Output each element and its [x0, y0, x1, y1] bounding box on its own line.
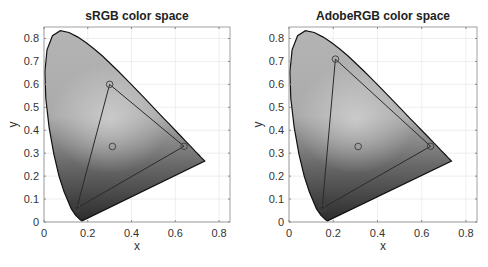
y-tick-label: 0 — [278, 216, 284, 228]
y-tick-label: 0.5 — [24, 101, 39, 113]
srgb-chart: 00.20.40.60.800.10.20.30.40.50.60.70.8sR… — [0, 0, 244, 267]
x-axis-label: x — [134, 239, 140, 253]
y-axis-label: y — [6, 122, 20, 128]
y-tick-label: 0.4 — [24, 124, 39, 136]
y-tick-label: 0.3 — [24, 147, 39, 159]
x-tick-label: 0.4 — [124, 227, 139, 239]
y-tick-label: 0.2 — [24, 170, 39, 182]
x-tick-label: 0.2 — [80, 227, 95, 239]
y-tick-label: 0.8 — [269, 32, 284, 44]
x-tick-label: 0 — [41, 227, 47, 239]
adobergb-chart-svg: 00.20.40.60.800.10.20.30.40.50.60.70.8Ad… — [244, 0, 488, 267]
x-tick-label: 0.6 — [414, 227, 429, 239]
y-tick-label: 0.3 — [269, 147, 284, 159]
y-axis-label: y — [251, 122, 265, 128]
y-tick-label: 0.1 — [269, 193, 284, 205]
x-tick-label: 0.2 — [326, 227, 341, 239]
x-tick-label: 0 — [286, 227, 292, 239]
y-tick-label: 0.5 — [269, 101, 284, 113]
srgb-chart-svg: 00.20.40.60.800.10.20.30.40.50.60.70.8sR… — [0, 0, 244, 267]
y-tick-label: 0.7 — [269, 55, 284, 67]
y-tick-label: 0.4 — [269, 124, 284, 136]
chart-title: sRGB color space — [85, 9, 189, 23]
y-tick-label: 0.6 — [24, 78, 39, 90]
adobergb-chart: 00.20.40.60.800.10.20.30.40.50.60.70.8Ad… — [244, 0, 488, 267]
x-axis-label: x — [380, 239, 386, 253]
y-tick-label: 0.8 — [24, 32, 39, 44]
y-tick-label: 0.6 — [269, 78, 284, 90]
x-tick-label: 0.6 — [168, 227, 183, 239]
x-tick-label: 0.8 — [211, 227, 226, 239]
y-tick-label: 0 — [33, 216, 39, 228]
y-tick-label: 0.1 — [24, 193, 39, 205]
y-tick-label: 0.7 — [24, 55, 39, 67]
y-tick-label: 0.2 — [269, 170, 284, 182]
x-tick-label: 0.8 — [458, 227, 473, 239]
x-tick-label: 0.4 — [370, 227, 385, 239]
chart-title: AdobeRGB color space — [316, 9, 450, 23]
